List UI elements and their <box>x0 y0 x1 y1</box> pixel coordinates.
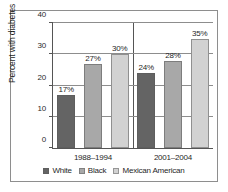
bar-group-1: 24%28%35% <box>133 23 213 148</box>
y-tick-label-20: 20 <box>38 72 47 81</box>
y-tick-label-0: 0 <box>42 135 46 144</box>
chart-legend: WhiteBlackMexican American <box>11 166 217 175</box>
x-category-label-0: 1988–1994 <box>53 153 133 162</box>
bar-white-0[interactable] <box>57 95 75 148</box>
bar-slot-0-0: 17% <box>57 23 75 148</box>
bar-group-0: 17%27%30% <box>53 23 133 148</box>
bar-value-label-0-1: 27% <box>85 54 100 63</box>
y-axis-title: Percent with diabetes <box>7 4 17 83</box>
bar-mexican-american-0[interactable] <box>111 54 129 148</box>
bar-value-label-0-0: 17% <box>59 85 74 94</box>
y-tick-label-40: 40 <box>38 10 47 19</box>
bar-white-1[interactable] <box>137 73 155 148</box>
plot-area: 01020304017%27%30%1988–199424%28%35%2001… <box>52 23 213 149</box>
bar-value-label-0-2: 30% <box>112 44 127 53</box>
legend-item-black[interactable]: Black <box>79 166 107 175</box>
chart-figure-frame: Percent with diabetes 01020304017%27%30%… <box>10 10 218 182</box>
legend-item-label: Mexican American <box>122 166 184 175</box>
bar-black-0[interactable] <box>84 64 102 148</box>
legend-swatch-icon <box>43 168 49 174</box>
legend-swatch-icon <box>79 168 85 174</box>
y-tick-label-30: 30 <box>38 41 47 50</box>
y-tick-label-10: 10 <box>38 103 47 112</box>
legend-swatch-icon <box>113 168 119 174</box>
x-category-label-1: 2001–2004 <box>133 153 213 162</box>
bar-value-label-1-1: 28% <box>165 51 180 60</box>
bar-slot-1-1: 28% <box>164 23 182 148</box>
legend-item-mexican-american[interactable]: Mexican American <box>113 166 184 175</box>
bar-mexican-american-1[interactable] <box>191 39 209 148</box>
bar-slot-1-2: 35% <box>191 23 209 148</box>
bar-slot-0-2: 30% <box>111 23 129 148</box>
legend-item-label: White <box>52 166 71 175</box>
legend-item-label: Black <box>88 166 107 175</box>
legend-item-white[interactable]: White <box>43 166 71 175</box>
bar-value-label-1-2: 35% <box>192 29 207 38</box>
bar-black-1[interactable] <box>164 61 182 149</box>
bar-slot-1-0: 24% <box>137 23 155 148</box>
bar-value-label-1-0: 24% <box>139 63 154 72</box>
bar-slot-0-1: 27% <box>84 23 102 148</box>
